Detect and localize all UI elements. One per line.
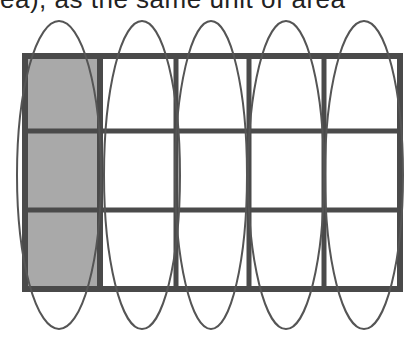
ellipse-4 [248,21,324,329]
shaded-column [22,54,100,291]
ellipse-3 [175,21,247,329]
ellipse-5 [325,21,403,329]
ellipse-2 [104,21,180,329]
area-grid-diagram [0,0,410,340]
